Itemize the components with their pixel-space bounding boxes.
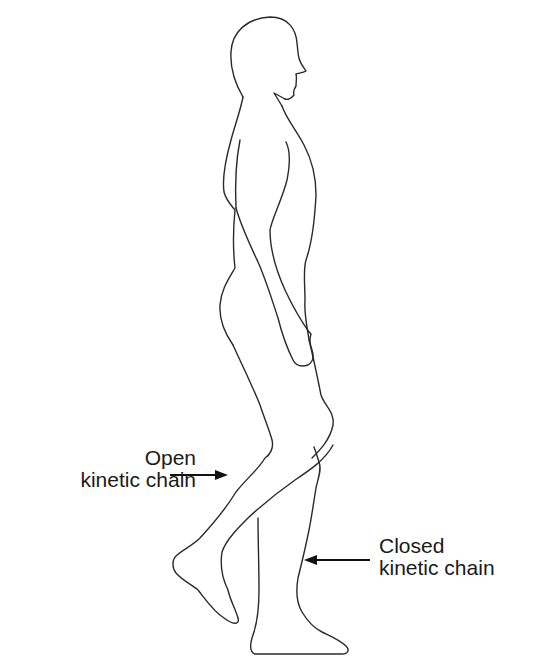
front-thigh-outline xyxy=(309,340,333,458)
closed-chain-arrowhead xyxy=(304,555,317,565)
closed-label-line2: kinetic chain xyxy=(379,557,495,579)
open-chain-arrowhead xyxy=(215,470,228,480)
chin-outline xyxy=(274,93,285,106)
closed-label-line1: Closed xyxy=(379,535,495,557)
head-outline xyxy=(231,17,306,99)
closed-chain-leg-back xyxy=(251,447,348,654)
arm-front-outline xyxy=(270,142,309,332)
open-chain-leg-back xyxy=(173,345,333,623)
arm-back-outline xyxy=(236,208,313,366)
back-outline xyxy=(220,97,243,345)
shoulder-line xyxy=(236,140,240,208)
front-torso-outline xyxy=(282,106,316,340)
open-kinetic-chain-label: Open kinetic chain xyxy=(80,447,196,491)
open-label-line1: Open xyxy=(80,447,196,469)
closed-kinetic-chain-label: Closed kinetic chain xyxy=(379,535,495,579)
open-label-line2: kinetic chain xyxy=(80,469,196,491)
